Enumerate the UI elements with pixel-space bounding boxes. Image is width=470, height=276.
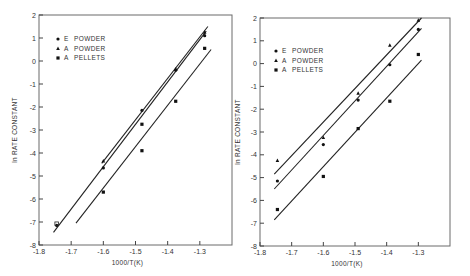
y-axis-label: ln RATE CONSTANT — [234, 99, 241, 165]
series-a-powder — [102, 27, 208, 164]
fit-line — [274, 18, 421, 174]
series-a-pellets — [76, 47, 211, 223]
legend-label: PELLETS — [292, 66, 324, 73]
x-tick-label: -1.5 — [129, 248, 141, 255]
data-point — [174, 100, 177, 103]
x-tick-label: -1.8 — [33, 248, 45, 255]
y-tick-label: -4 — [251, 151, 257, 158]
data-point — [388, 100, 391, 103]
legend-label: PELLETS — [74, 54, 106, 61]
legend-label: POWDER — [292, 47, 324, 54]
x-tick-label: -1.4 — [162, 248, 174, 255]
y-tick-label: 2 — [253, 15, 257, 22]
data-point — [356, 91, 360, 94]
series-a-pellets — [274, 53, 421, 220]
y-tick-label: 1 — [32, 35, 36, 42]
fit-line — [76, 50, 211, 224]
data-point — [417, 53, 420, 56]
y-tick-label: 1 — [253, 37, 257, 44]
legend-label-prefix: A — [282, 57, 287, 64]
data-point — [276, 208, 279, 211]
y-tick-label: -7 — [251, 220, 257, 227]
y-tick-label: -5 — [30, 173, 36, 180]
x-tick-label: -1.6 — [97, 248, 109, 255]
series-a-powder — [274, 18, 421, 174]
x-axis-label: 1000/T(K) — [331, 260, 363, 268]
legend-label-prefix: A — [64, 45, 69, 52]
x-tick-label: -1.7 — [286, 249, 298, 256]
y-tick-label: -6 — [251, 197, 257, 204]
legend-label: POWDER — [74, 35, 106, 42]
chart-2: -1.8-1.7-1.6-1.5-1.4-1.3210-1-2-3-4-5-6-… — [234, 15, 450, 269]
y-tick-label: -8 — [251, 243, 257, 250]
y-tick-label: 0 — [253, 60, 257, 67]
fit-line — [274, 60, 421, 220]
data-point — [203, 34, 206, 37]
data-point — [322, 175, 325, 178]
data-point — [388, 43, 392, 46]
figure: -1.8-1.7-1.6-1.5-1.4-1.3210-1-2-3-4-5-6-… — [0, 0, 470, 276]
fit-line — [102, 27, 208, 164]
y-tick-label: -1 — [30, 81, 36, 88]
data-point — [388, 63, 391, 66]
legend-label-prefix: E — [282, 47, 287, 54]
series-e-powder — [53, 31, 206, 232]
x-tick-label: -1.4 — [381, 249, 393, 256]
x-tick-label: -1.3 — [412, 249, 424, 256]
chart-1: -1.8-1.7-1.6-1.5-1.4-1.3210-1-2-3-4-5-6-… — [11, 12, 232, 268]
y-tick-label: -2 — [30, 104, 36, 111]
y-tick-label: -4 — [30, 150, 36, 157]
y-tick-label: -7 — [30, 219, 36, 226]
y-tick-label: -5 — [251, 174, 257, 181]
y-tick-label: -2 — [251, 106, 257, 113]
legend-label-prefix: A — [282, 66, 287, 73]
y-tick-label: -8 — [30, 242, 36, 249]
data-point — [322, 143, 325, 146]
y-tick-label: -6 — [30, 196, 36, 203]
legend-label: POWDER — [292, 57, 324, 64]
data-point — [203, 47, 206, 50]
legend-marker — [274, 59, 278, 62]
y-tick-label: 2 — [32, 12, 36, 19]
data-point — [276, 159, 280, 162]
y-tick-label: 0 — [32, 58, 36, 65]
data-point — [276, 179, 279, 182]
x-axis-label: 1000/T(K) — [112, 259, 144, 267]
y-tick-label: -3 — [30, 127, 36, 134]
legend-label-prefix: A — [64, 54, 69, 61]
legend-marker — [56, 56, 59, 59]
x-tick-label: -1.7 — [65, 248, 77, 255]
legend-marker — [274, 68, 277, 71]
legend-marker — [274, 49, 277, 52]
data-point — [417, 28, 420, 31]
data-point — [102, 166, 105, 169]
legend-marker — [56, 47, 60, 50]
data-point — [102, 191, 105, 194]
data-point — [140, 123, 143, 126]
legend-label-prefix: E — [64, 35, 69, 42]
legend-marker — [56, 37, 59, 40]
fit-line — [53, 31, 206, 232]
y-tick-label: -3 — [251, 129, 257, 136]
legend-label: POWDER — [74, 45, 106, 52]
data-point — [357, 98, 360, 101]
x-tick-label: -1.6 — [317, 249, 329, 256]
x-tick-label: -1.3 — [194, 248, 206, 255]
data-point — [357, 127, 360, 130]
y-tick-label: -1 — [251, 83, 257, 90]
y-axis-label: ln RATE CONSTANT — [11, 97, 18, 163]
x-tick-label: -1.5 — [349, 249, 361, 256]
x-tick-label: -1.8 — [254, 249, 266, 256]
data-point — [140, 149, 143, 152]
